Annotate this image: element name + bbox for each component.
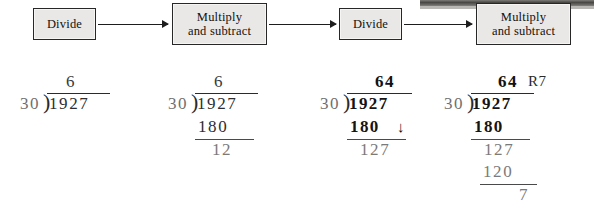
figure-canvas: Divide Multiply and subtract Divide Mult… xyxy=(0,0,594,209)
long-division-problem-4: 64 R7 30 ) 1927 180 127 120 7 xyxy=(444,72,594,207)
problem-2-step-line-1: 180 xyxy=(198,117,228,137)
flow-step-4-label-line1: Multiply xyxy=(501,10,546,24)
problem-3-dividend: 1927 xyxy=(349,94,389,114)
problem-3-quotient: 64 xyxy=(375,72,395,92)
flow-step-4-label-line2: and subtract xyxy=(492,24,555,38)
long-division-problem-1: 6 30 ) 1927 xyxy=(20,72,150,192)
problem-2-divisor: 30 xyxy=(168,94,188,114)
problem-4-step-line-3: 120 xyxy=(483,162,513,182)
long-division-problem-3: 64 30 ) 1927 180 ↓ 127 xyxy=(320,72,460,192)
flow-step-divide-2: Divide xyxy=(339,8,402,40)
problem-3-step-line-1: 180 xyxy=(350,117,380,137)
flow-step-3-label: Divide xyxy=(353,17,388,31)
problem-4-quotient: 64 xyxy=(498,72,518,92)
problem-2-dividend: 1927 xyxy=(197,94,237,114)
flow-arrow-2 xyxy=(269,24,336,26)
flow-step-divide-1: Divide xyxy=(33,8,96,40)
problem-4-remainder-label: R7 xyxy=(528,73,547,90)
flow-step-multiply-subtract-1: Multiply and subtract xyxy=(172,3,267,45)
problem-1-divisor: 30 xyxy=(20,94,40,114)
long-division-problem-2: 6 30 ) 1927 180 12 xyxy=(168,72,308,192)
flow-step-2-label-line2: and subtract xyxy=(188,24,251,38)
problem-4-divisor: 30 xyxy=(444,94,464,114)
problem-2-quotient: 6 xyxy=(214,72,224,92)
problem-3-bring-down-arrow: ↓ xyxy=(397,120,405,135)
problem-4-step-line-2: 127 xyxy=(484,140,514,160)
problem-4-step-line-4: 7 xyxy=(519,185,529,205)
problem-2-step-line-2: 12 xyxy=(212,140,232,160)
problem-4-dividend: 1927 xyxy=(472,94,512,114)
flow-step-1-label: Divide xyxy=(47,17,82,31)
flow-step-2-label-line1: Multiply xyxy=(197,10,242,24)
problem-4-step-line-1: 180 xyxy=(474,117,504,137)
problem-3-step-line-2: 127 xyxy=(360,140,390,160)
problem-1-dividend: 1927 xyxy=(49,94,89,114)
flow-arrow-1 xyxy=(98,24,168,26)
problem-1-quotient: 6 xyxy=(66,72,76,92)
problem-3-divisor: 30 xyxy=(320,94,340,114)
flow-arrow-3 xyxy=(404,24,472,26)
flow-step-multiply-subtract-2: Multiply and subtract xyxy=(476,3,571,45)
